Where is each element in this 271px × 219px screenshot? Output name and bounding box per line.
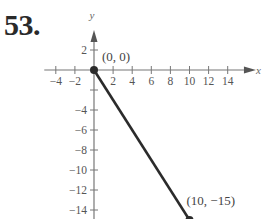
y-tick-label: 2 xyxy=(81,44,87,56)
x-tick-label: 10 xyxy=(184,75,196,87)
x-tick-label: 2 xyxy=(110,75,116,87)
endpoint-dot xyxy=(90,66,98,74)
y-tick-label: −14 xyxy=(69,204,87,216)
y-tick-label: −6 xyxy=(75,124,87,136)
x-tick-label: 6 xyxy=(148,75,154,87)
point-label-origin: (0, 0) xyxy=(102,49,130,64)
coordinate-plane: xy−4−224681012142−4−6−8−10−12−14(0, 0)(1… xyxy=(0,0,271,219)
y-axis-label: y xyxy=(89,9,95,21)
point-label-endpoint: (10, −15) xyxy=(187,193,236,208)
line-segment xyxy=(94,70,190,219)
x-axis-arrow-icon xyxy=(244,67,256,74)
y-axis-arrow-icon xyxy=(91,30,98,42)
x-tick-label: −2 xyxy=(69,75,81,87)
x-tick-label: 14 xyxy=(222,75,234,87)
y-tick-label: −4 xyxy=(75,104,87,116)
y-tick-label: −12 xyxy=(69,184,87,196)
x-tick-label: −4 xyxy=(50,75,62,87)
y-tick-label: −8 xyxy=(75,144,87,156)
x-axis-label: x xyxy=(255,64,261,76)
y-tick-label: −10 xyxy=(69,164,87,176)
x-tick-label: 8 xyxy=(168,75,174,87)
x-tick-label: 4 xyxy=(129,75,135,87)
x-tick-label: 12 xyxy=(203,75,215,87)
